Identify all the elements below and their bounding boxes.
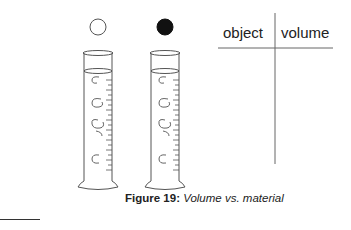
black-ball-icon	[157, 19, 173, 35]
white-ball-icon	[90, 19, 106, 35]
table-header-volume: volume	[281, 24, 329, 41]
graduated-cylinder-icon	[145, 51, 185, 190]
figure-caption: Figure 19: Volume vs. material	[125, 192, 284, 204]
footnote-rule	[0, 219, 40, 220]
graduated-cylinder-icon	[78, 51, 118, 190]
table-header-object: object	[223, 24, 263, 41]
caption-text: Volume vs. material	[183, 192, 284, 204]
caption-label: Figure 19:	[125, 192, 180, 204]
